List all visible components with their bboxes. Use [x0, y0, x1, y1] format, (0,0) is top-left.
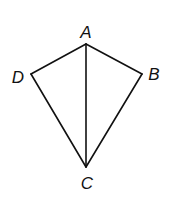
kite-diagram: A B C D [0, 0, 176, 197]
vertex-label-c: C [81, 174, 94, 193]
segment-DA [31, 44, 86, 74]
segments [31, 44, 142, 167]
segment-CD [31, 74, 86, 167]
segment-BC [86, 74, 142, 167]
vertex-label-d: D [12, 68, 24, 87]
vertex-label-b: B [148, 65, 159, 84]
segment-AB [86, 44, 142, 74]
vertex-label-a: A [79, 23, 91, 42]
